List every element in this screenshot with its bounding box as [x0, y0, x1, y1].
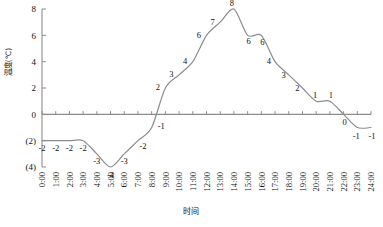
- data-point-label: -3: [93, 156, 100, 166]
- data-point-label: 0: [342, 117, 346, 127]
- x-tick-label: 18:00: [284, 172, 294, 191]
- data-point-label: -3: [121, 156, 128, 166]
- data-point-label: 7: [210, 17, 214, 27]
- data-point-label: -1: [368, 131, 375, 141]
- data-point-label: 8: [230, 0, 234, 8]
- x-tick-label: 23:00: [352, 172, 362, 191]
- data-point-label: 1: [329, 90, 333, 100]
- x-tick-label: 19:00: [298, 172, 308, 191]
- data-point-label: -2: [139, 141, 146, 151]
- data-point-label: 6: [197, 30, 201, 40]
- chart-canvas: 86420(2)(4)0:001:002:003:004:005:006:007…: [0, 0, 383, 227]
- x-tick-label: 14:00: [229, 172, 239, 191]
- y-tick-label: 8: [32, 4, 37, 14]
- y-tick-label: 2: [32, 83, 37, 93]
- data-point-label: 2: [156, 82, 160, 92]
- x-tick-label: 12:00: [202, 172, 212, 191]
- data-point-label: 6: [260, 37, 264, 47]
- x-tick-label: 9:00: [161, 172, 171, 187]
- data-point-label: -2: [38, 143, 45, 153]
- x-tick-label: 6:00: [119, 172, 129, 187]
- data-labels-group: -2-2-2-2-3-4-3-2-123467866432110-1-1: [38, 0, 375, 180]
- y-tick-label: 4: [32, 57, 37, 67]
- x-tick-label: 8:00: [147, 172, 157, 187]
- data-point-label: -4: [107, 170, 115, 180]
- data-point-label: 2: [295, 83, 299, 93]
- x-tick-label: 4:00: [92, 172, 102, 187]
- data-point-label: 6: [247, 36, 251, 46]
- x-tick-label: 22:00: [339, 172, 349, 191]
- x-tick-label: 15:00: [243, 172, 253, 191]
- data-point-label: -2: [80, 143, 87, 153]
- x-tick-labels: 0:001:002:003:004:005:006:007:008:009:00…: [37, 172, 376, 191]
- y-tick-label: (2): [26, 136, 37, 146]
- x-axis-title: 时间: [183, 206, 199, 216]
- x-tick-label: 16:00: [257, 172, 267, 191]
- x-tick-label: 13:00: [215, 172, 225, 191]
- data-point-label: 4: [183, 56, 188, 66]
- x-tick-label: 0:00: [37, 172, 47, 187]
- x-tick-label: 11:00: [188, 172, 198, 191]
- y-tick-label: (4): [26, 162, 37, 172]
- x-tick-label: 7:00: [133, 172, 143, 187]
- data-point-label: -2: [52, 143, 59, 153]
- temperature-line-chart: 86420(2)(4)0:001:002:003:004:005:006:007…: [0, 0, 383, 227]
- data-series-line: [42, 9, 371, 167]
- x-tick-label: 24:00: [366, 172, 376, 191]
- x-tick-label: 20:00: [311, 172, 321, 191]
- data-point-label: 1: [313, 90, 317, 100]
- x-tick-label: 3:00: [78, 172, 88, 187]
- x-tick-label: 2:00: [65, 172, 75, 187]
- x-tick-label: 1:00: [51, 172, 61, 187]
- y-axis-title: 温度(℃): [3, 48, 13, 76]
- data-point-label: -1: [158, 121, 165, 131]
- data-point-label: 4: [267, 56, 272, 66]
- data-point-label: 3: [169, 69, 173, 79]
- data-point-label: -1: [353, 131, 360, 141]
- data-point-label: 3: [282, 70, 286, 80]
- axes-group: [42, 9, 371, 167]
- x-tick-label: 10:00: [174, 172, 184, 191]
- x-tick-label: 17:00: [270, 172, 280, 191]
- x-tick-label: 21:00: [325, 172, 335, 191]
- data-point-label: -2: [66, 143, 73, 153]
- y-tick-label: 0: [32, 110, 37, 120]
- y-tick-label: 6: [32, 31, 37, 41]
